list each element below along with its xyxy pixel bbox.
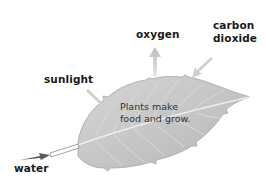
water-label: water (14, 162, 49, 175)
carbon-label-line2: dioxide (213, 32, 257, 45)
caption-line2: food and grow. (120, 113, 190, 125)
photosynthesis-diagram: oxygen carbon dioxide sunlight water Pla… (0, 0, 266, 187)
leaf-caption: Plants make food and grow. (120, 101, 190, 125)
carbon-label-line1: carbon (213, 19, 257, 32)
leaf-stem (50, 144, 79, 157)
carbon-dioxide-label: carbon dioxide (213, 19, 257, 45)
oxygen-label: oxygen (136, 28, 180, 41)
water-arrow (20, 153, 50, 160)
sunlight-label: sunlight (44, 73, 93, 86)
carbon-dioxide-arrow (192, 57, 213, 78)
caption-line1: Plants make (120, 101, 190, 113)
oxygen-arrow (149, 47, 161, 76)
